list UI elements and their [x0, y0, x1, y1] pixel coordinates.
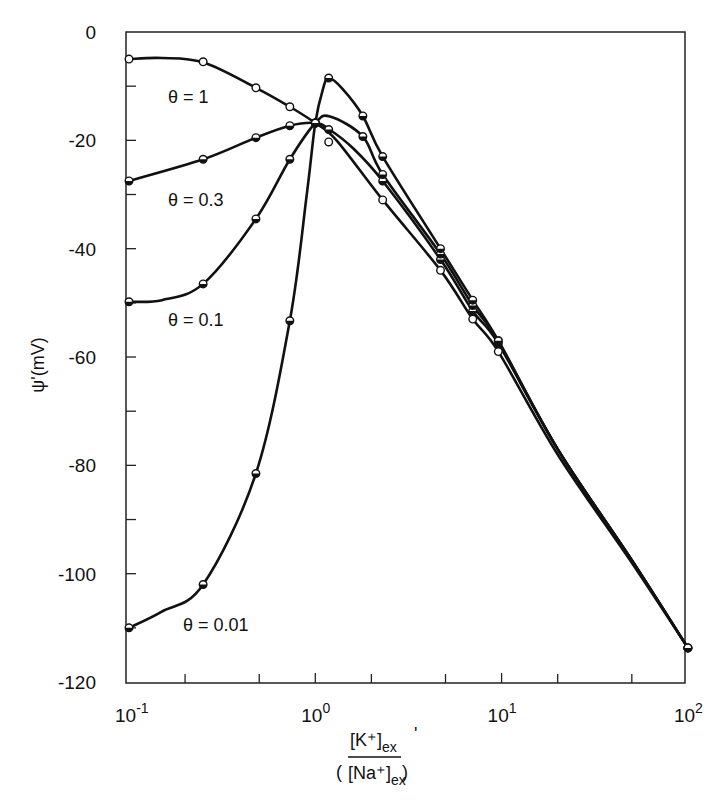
data-point	[437, 267, 445, 275]
curve-theta-0	[129, 58, 688, 648]
y-axis: 0-20-40-60-80-100-120	[58, 22, 136, 693]
left-paren: (	[336, 762, 342, 782]
prime-mark: '	[414, 724, 417, 744]
curve-label: θ = 0.3	[168, 190, 224, 210]
y-tick-label: -20	[69, 130, 96, 151]
data-point	[252, 84, 260, 92]
curve-label: θ = 0.1	[168, 310, 224, 330]
x-tick-label: 101	[488, 700, 517, 726]
x-tick-label: 100	[301, 700, 330, 726]
x-axis-title: ( [K⁺]ex [Na⁺]ex ) '	[336, 724, 417, 788]
curve-label: θ = 1	[168, 87, 209, 107]
x-title-numerator: [K⁺]ex	[350, 730, 397, 755]
curve-theta-3	[129, 78, 688, 648]
y-tick-label: -60	[69, 347, 96, 368]
curve-labels: θ = 1θ = 0.3θ = 0.1θ = 0.01	[168, 87, 249, 635]
data-point	[199, 58, 207, 66]
plot-frame	[126, 32, 685, 683]
curve-label: θ = 0.01	[183, 615, 249, 635]
chart: 0-20-40-60-80-100-120 10-1100101102 θ = …	[0, 0, 718, 808]
data-point	[286, 103, 294, 111]
y-tick-label: -120	[58, 672, 96, 693]
y-tick-label: -40	[69, 239, 96, 260]
y-tick-label: -80	[69, 455, 96, 476]
x-axis: 10-1100101102	[115, 673, 703, 726]
y-tick-label: -100	[58, 564, 96, 585]
x-tick-label: 102	[674, 700, 703, 726]
x-tick-label: 10-1	[115, 700, 149, 726]
data-markers	[125, 55, 692, 651]
data-point	[469, 315, 477, 323]
data-point	[125, 55, 133, 63]
data-point	[379, 196, 387, 204]
x-title-denominator: [Na⁺]ex	[348, 763, 406, 788]
data-point	[325, 138, 333, 146]
y-tick-label: 0	[85, 22, 96, 43]
y-axis-title: ψ'(mV)	[28, 337, 48, 392]
plot-curves	[129, 58, 688, 648]
right-paren: )	[402, 762, 408, 782]
data-point	[494, 348, 502, 356]
